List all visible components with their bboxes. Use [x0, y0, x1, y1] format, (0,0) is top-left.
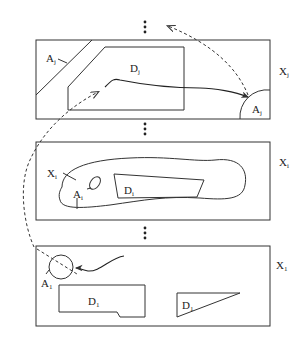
panel-1	[36, 246, 270, 326]
panel-j	[36, 26, 270, 119]
label-hole-ai: Ai	[73, 189, 83, 202]
label-domain-d1-b: D1	[182, 300, 193, 313]
label-manifold-xi: Xi	[47, 168, 57, 181]
label-space-xj: Xj	[279, 66, 289, 79]
label-target-a1: A1	[41, 278, 52, 291]
transition-dashed-curve	[23, 92, 98, 247]
ellipsis-top	[144, 21, 147, 34]
label-obstacle-aj: Aj	[46, 53, 56, 66]
ellipsis-middle	[144, 123, 147, 136]
label-space-xi: Xi	[279, 157, 289, 170]
label-target-aj: Aj	[252, 104, 262, 117]
panel-i	[36, 142, 270, 220]
label-domain-dj: Dj	[130, 63, 140, 76]
label-domain-di: Di	[124, 185, 134, 198]
label-domain-d1-a: D1	[88, 296, 99, 309]
ellipsis-bottom	[144, 227, 147, 240]
diagram-canvas: Aj Dj Aj Xj Xi Ai Di Xi A1 D1 D1 X1	[0, 0, 302, 343]
label-space-x1: X1	[276, 260, 287, 273]
